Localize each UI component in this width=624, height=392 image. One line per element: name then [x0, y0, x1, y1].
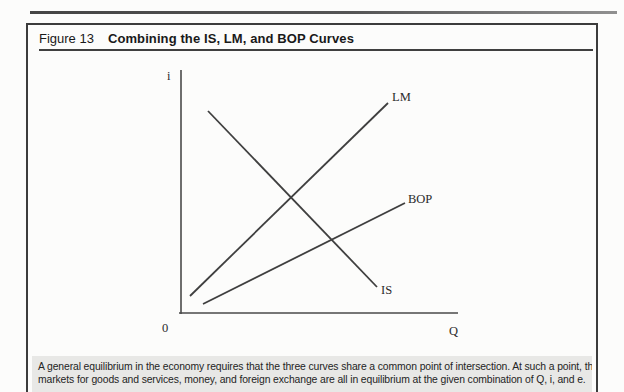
lm-curve-label: LM — [392, 90, 411, 104]
textbook-figure-page: Figure 13Combining the IS, LM, and BOP C… — [0, 0, 624, 392]
caption-line-2: markets for goods and services, money, a… — [38, 374, 586, 387]
is-lm-bop-chart: i 0 Q IS LM BOP — [0, 0, 624, 392]
origin-label: 0 — [162, 321, 168, 335]
bop-curve-label: BOP — [408, 192, 432, 206]
caption-line-1: A general equilibrium in the economy req… — [38, 361, 586, 374]
is-curve-label: IS — [381, 283, 392, 297]
y-axis-label: i — [167, 69, 171, 83]
x-axis-label: Q — [449, 324, 458, 338]
figure-caption: A general equilibrium in the economy req… — [32, 356, 592, 392]
